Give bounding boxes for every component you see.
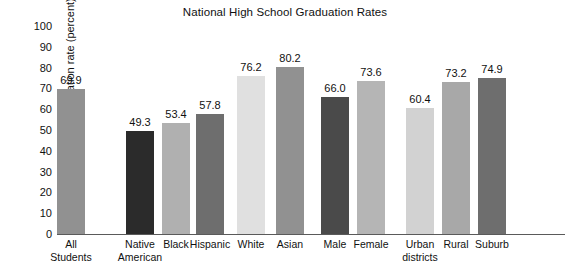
bar-column[interactable]: 49.3	[126, 26, 154, 234]
bar-column[interactable]: 66.0	[321, 26, 349, 234]
bar[interactable]	[478, 78, 506, 234]
x-axis-line	[57, 234, 565, 235]
bar[interactable]	[126, 131, 154, 234]
bar[interactable]	[442, 82, 470, 234]
y-axis-tick-label: 40	[22, 145, 52, 156]
bar[interactable]	[276, 67, 304, 234]
bar-column[interactable]: 57.8	[196, 26, 224, 234]
bar-chart: National High School Graduation Rates Gr…	[0, 0, 570, 270]
bar-value-label: 60.4	[409, 94, 430, 105]
plot-area: 69.949.353.457.876.280.266.073.660.473.2…	[57, 26, 565, 234]
y-axis-tick-label: 80	[22, 62, 52, 73]
bar-column[interactable]: 74.9	[478, 26, 506, 234]
y-axis-tick-label: 90	[22, 41, 52, 52]
y-axis-tick-label: 70	[22, 83, 52, 94]
bar-column[interactable]: 53.4	[162, 26, 190, 234]
bar-column[interactable]: 76.2	[237, 26, 265, 234]
bar-column[interactable]: 73.2	[442, 26, 470, 234]
y-axis-tick-label: 30	[22, 166, 52, 177]
bar-value-label: 53.4	[165, 109, 186, 120]
bar[interactable]	[357, 81, 385, 234]
chart-title: National High School Graduation Rates	[0, 6, 570, 18]
bar-column[interactable]: 73.6	[357, 26, 385, 234]
y-axis-tick-label: 20	[22, 187, 52, 198]
bar[interactable]	[406, 108, 434, 234]
bar-value-label: 76.2	[240, 62, 261, 73]
x-axis-category-label: Suburb	[462, 238, 522, 251]
bar-column[interactable]: 60.4	[406, 26, 434, 234]
bar-value-label: 57.8	[199, 100, 220, 111]
bar-value-label: 69.9	[60, 75, 81, 86]
bar[interactable]	[162, 123, 190, 234]
y-axis-tick-label: 10	[22, 208, 52, 219]
bar-value-label: 49.3	[129, 117, 150, 128]
y-axis-tick-label: 60	[22, 104, 52, 115]
bar-value-label: 73.2	[445, 68, 466, 79]
bar[interactable]	[196, 114, 224, 234]
bar-value-label: 73.6	[360, 67, 381, 78]
y-axis-tick-label: 50	[22, 125, 52, 136]
y-axis-tick-label: 100	[22, 21, 52, 32]
bar-value-label: 74.9	[481, 64, 502, 75]
bar-column[interactable]: 69.9	[57, 26, 85, 234]
bar[interactable]	[321, 97, 349, 234]
bar[interactable]	[237, 76, 265, 234]
bar-value-label: 80.2	[279, 53, 300, 64]
bar[interactable]	[57, 89, 85, 234]
bar-column[interactable]: 80.2	[276, 26, 304, 234]
bar-value-label: 66.0	[324, 83, 345, 94]
x-axis-category-label: All Students	[41, 238, 101, 263]
y-axis-ticks: 1009080706050403020100	[22, 26, 52, 234]
